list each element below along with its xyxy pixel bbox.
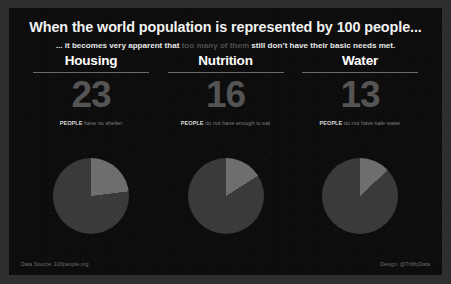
title-divider [302, 72, 418, 73]
pie-chart-housing [53, 158, 129, 234]
pie-chart-water [322, 158, 398, 234]
stat-columns: Housing 23 PEOPLE have no shelter Nutrit… [9, 54, 442, 127]
caption-strong: PEOPLE [181, 120, 204, 126]
page-title: When the world population is represented… [9, 20, 442, 36]
poster-footer: Data Source: 100people.org Design: @TriM… [21, 261, 430, 267]
stat-column-housing: Housing 23 PEOPLE have no shelter [27, 54, 155, 127]
subtitle-dim-phrase: too many of them [182, 41, 249, 50]
infographic-poster: When the world population is represented… [0, 0, 451, 284]
stat-column-water: Water 13 PEOPLE do not have safe water [296, 54, 424, 127]
stat-title-water: Water [296, 54, 424, 69]
stat-title-nutrition: Nutrition [162, 54, 290, 69]
design-credit-label: Design: @TriMyData [380, 261, 430, 267]
caption-strong: PEOPLE [320, 120, 343, 126]
data-source-label: Data Source: 100people.org [21, 261, 89, 267]
caption-rest: have no shelter [84, 120, 122, 126]
pie-chart-nutrition [188, 158, 264, 234]
subtitle-lead: ... it becomes very apparent that [56, 41, 180, 50]
stat-value-housing: 23 [27, 76, 155, 113]
stat-value-water: 13 [296, 76, 424, 113]
pie-chart-row [9, 158, 442, 234]
pie-wrap-water [296, 158, 424, 234]
caption-strong: PEOPLE [60, 120, 83, 126]
stat-caption-housing: PEOPLE have no shelter [27, 120, 155, 127]
caption-rest: do not have safe water [344, 120, 401, 126]
stat-caption-water: PEOPLE do not have safe water [296, 120, 424, 127]
stat-value-nutrition: 16 [162, 76, 290, 113]
stat-column-nutrition: Nutrition 16 PEOPLE do not have enough t… [162, 54, 290, 127]
title-divider [33, 72, 149, 73]
title-divider [168, 72, 284, 73]
pie-wrap-housing [27, 158, 155, 234]
stat-title-housing: Housing [27, 54, 155, 69]
stat-caption-nutrition: PEOPLE do not have enough to eat [162, 120, 290, 127]
pie-wrap-nutrition [162, 158, 290, 234]
subtitle: ... it becomes very apparent that too ma… [9, 41, 442, 51]
poster-panel: When the world population is represented… [9, 8, 442, 275]
subtitle-tail: still don’t have their basic needs met. [251, 41, 395, 50]
caption-rest: do not have enough to eat [205, 120, 270, 126]
